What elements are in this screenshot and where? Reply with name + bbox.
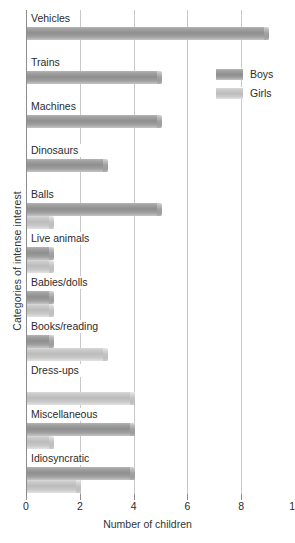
bar-row: Live animals <box>26 230 295 274</box>
bar-girls <box>27 260 54 273</box>
x-axis-title: Number of children <box>0 518 295 530</box>
x-tick-label-0: 0 <box>23 500 29 512</box>
bar-girls <box>27 436 54 449</box>
x-axis-line <box>26 494 295 495</box>
bar-chart: Categories of intense interest VehiclesT… <box>0 0 295 543</box>
bar-boys <box>27 203 162 216</box>
category-label: Babies/dolls <box>30 276 91 289</box>
bar-boys <box>27 71 162 84</box>
y-axis-title: Categories of intense interest <box>11 181 23 341</box>
category-label: Dress-ups <box>30 364 82 377</box>
legend: Boys Girls <box>216 68 273 106</box>
category-label: Live animals <box>30 232 92 245</box>
bar-row: Idiosyncratic <box>26 450 295 494</box>
legend-swatch-girls <box>216 88 243 99</box>
bar-row: Miscellaneous <box>26 406 295 450</box>
bar-girls <box>27 480 81 493</box>
category-label: Dinosaurs <box>30 144 81 157</box>
bar-boys <box>27 27 269 40</box>
legend-swatch-boys <box>216 69 243 80</box>
bar-row: Vehicles <box>26 10 295 54</box>
bar-boys <box>27 291 54 304</box>
category-label: Vehicles <box>30 12 73 25</box>
legend-label-girls: Girls <box>250 87 272 99</box>
bar-row: Dinosaurs <box>26 142 295 186</box>
bar-boys <box>27 247 54 260</box>
category-label: Trains <box>30 56 63 69</box>
category-label: Idiosyncratic <box>30 452 92 465</box>
bar-boys <box>27 335 54 348</box>
bar-row: Dress-ups <box>26 362 295 406</box>
bar-boys <box>27 115 162 128</box>
category-label: Miscellaneous <box>30 408 101 421</box>
x-tick-label-2: 2 <box>77 500 83 512</box>
x-tick-label-10: 10 <box>289 500 295 512</box>
bar-row: Balls <box>26 186 295 230</box>
bar-row: Books/reading <box>26 318 295 362</box>
category-label: Machines <box>30 100 79 113</box>
x-tick-label-6: 6 <box>184 500 190 512</box>
x-tick-label-8: 8 <box>238 500 244 512</box>
category-label: Balls <box>30 188 57 201</box>
bar-girls <box>27 348 108 361</box>
x-tick-label-4: 4 <box>131 500 137 512</box>
bar-girls <box>27 392 135 405</box>
category-label: Books/reading <box>30 320 101 333</box>
bar-girls <box>27 304 54 317</box>
legend-item-girls: Girls <box>216 87 273 99</box>
bar-boys <box>27 159 108 172</box>
legend-label-boys: Boys <box>250 68 273 80</box>
bar-boys <box>27 423 135 436</box>
bar-row: Babies/dolls <box>26 274 295 318</box>
bar-girls <box>27 216 54 229</box>
bar-boys <box>27 467 135 480</box>
legend-item-boys: Boys <box>216 68 273 80</box>
